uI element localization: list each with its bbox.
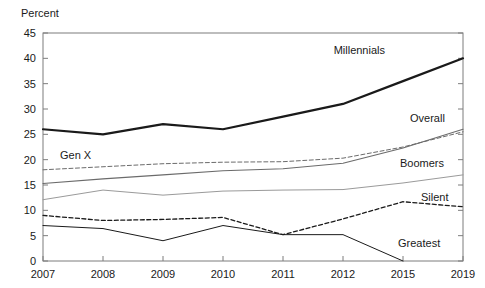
y-tick-label: 15 <box>24 179 36 191</box>
y-axis-ticks-right <box>458 33 463 261</box>
series-label-boomers: Boomers <box>400 157 445 169</box>
series-label-gen-x: Gen X <box>60 149 92 161</box>
y-axis-unit-label: Percent <box>21 7 59 19</box>
y-tick-label: 25 <box>24 128 36 140</box>
chart-container: Percent 051015202530354045 2007200820092… <box>0 0 485 288</box>
x-tick-label: 2009 <box>151 268 175 280</box>
series-line-greatest <box>43 226 403 261</box>
x-tick-label: 2012 <box>331 268 355 280</box>
y-tick-label: 45 <box>24 27 36 39</box>
series-label-overall: Overall <box>410 112 445 124</box>
x-tick-label: 2007 <box>31 268 55 280</box>
series-label-silent: Silent <box>421 191 449 203</box>
y-tick-label: 5 <box>30 230 36 242</box>
y-tick-label: 0 <box>30 255 36 267</box>
series-labels-group: MillennialsGen XOverallBoomersSilentGrea… <box>60 44 449 249</box>
y-tick-label: 30 <box>24 103 36 115</box>
y-tick-label: 40 <box>24 52 36 64</box>
x-tick-label: 2019 <box>451 268 475 280</box>
x-tick-label: 2011 <box>271 268 295 280</box>
series-line-millennials <box>43 58 463 134</box>
line-chart: Percent 051015202530354045 2007200820092… <box>0 0 485 288</box>
series-label-millennials: Millennials <box>334 44 386 56</box>
y-tick-label: 20 <box>24 154 36 166</box>
y-axis-ticks: 051015202530354045 <box>24 27 48 267</box>
plot-area-border <box>43 33 463 261</box>
y-tick-label: 10 <box>24 204 36 216</box>
x-tick-label: 2015 <box>391 268 415 280</box>
series-label-greatest: Greatest <box>398 237 440 249</box>
x-tick-label: 2008 <box>91 268 115 280</box>
x-tick-label: 2010 <box>211 268 235 280</box>
x-axis-ticks: 20072008200920102011201220152019 <box>31 256 475 280</box>
y-tick-label: 35 <box>24 78 36 90</box>
plot-frame <box>43 33 463 261</box>
